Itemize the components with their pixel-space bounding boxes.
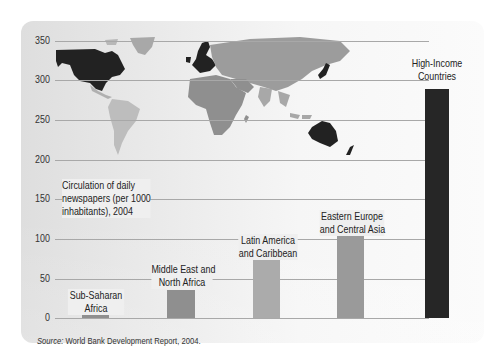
source-prefix: Source:: [37, 336, 63, 346]
source-text: World Bank Development Report, 2004.: [63, 336, 200, 346]
note-line-1: Circulation of daily: [62, 179, 151, 192]
world-map-illustration: [50, 35, 370, 160]
gridline-250: [55, 120, 429, 121]
bar-middle-east-north-africa: [167, 290, 195, 318]
y-tick-0: 0: [30, 311, 50, 323]
label-high-income-countries: High-Income Countries: [409, 57, 465, 83]
label-line: Sub-Saharan: [68, 289, 124, 302]
label-line: Countries: [409, 70, 465, 83]
label-middle-east-north-africa: Middle East and North Africa: [151, 263, 212, 289]
label-line: High-Income: [409, 57, 465, 70]
note-line-2: newspapers (per 1000: [62, 192, 151, 205]
source-note: Source: World Bank Development Report, 2…: [37, 336, 201, 346]
y-tick-100: 100: [30, 232, 50, 244]
label-sub-saharan-africa: Sub-Saharan Africa: [68, 289, 124, 315]
y-tick-250: 250: [30, 113, 50, 125]
label-latin-america-caribbean: Latin America and Caribbean: [238, 234, 298, 260]
bar-high-income-countries: [425, 89, 449, 318]
label-line: and Central Asia: [320, 223, 385, 236]
bar-eastern-europe-central-asia: [337, 236, 364, 318]
label-line: Eastern Europe: [320, 210, 385, 223]
gridline-50: [55, 279, 429, 280]
note-line-3: inhabitants), 2004: [62, 205, 151, 218]
label-line: Africa: [68, 302, 124, 315]
gridline-0: [55, 318, 429, 319]
y-tick-150: 150: [30, 192, 50, 204]
label-line: Middle East and: [151, 263, 212, 276]
gridline-350: [55, 41, 429, 42]
label-line: and Caribbean: [238, 247, 298, 260]
label-eastern-europe-central-asia: Eastern Europe and Central Asia: [320, 210, 385, 236]
label-line: North Africa: [151, 276, 212, 289]
bar-sub-saharan-africa: [82, 315, 109, 318]
gridline-200: [55, 160, 429, 161]
y-tick-50: 50: [30, 272, 50, 284]
y-tick-200: 200: [30, 153, 50, 165]
chart-title-note: Circulation of daily newspapers (per 100…: [62, 179, 151, 218]
gridline-300: [55, 80, 429, 81]
y-tick-300: 300: [30, 73, 50, 85]
label-line: Latin America: [238, 234, 298, 247]
bar-latin-america-caribbean: [253, 260, 280, 318]
y-tick-350: 350: [30, 34, 50, 46]
